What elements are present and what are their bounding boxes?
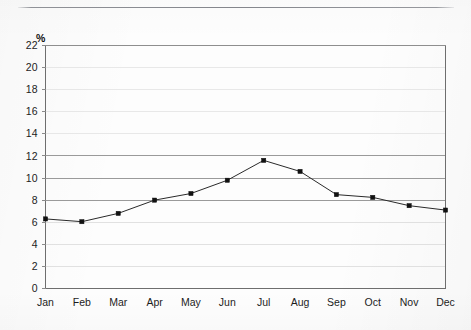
data-point-marker-jun (225, 178, 229, 182)
x-tick-label-aug: Aug (291, 296, 310, 308)
x-tick-label-apr: Apr (146, 296, 163, 308)
data-point-marker-jul (262, 158, 266, 162)
x-tick-label-oct: Oct (365, 296, 381, 308)
y-tick-label-18: 18 (26, 83, 38, 95)
x-tick-label-jan: Jan (37, 296, 54, 308)
data-point-marker-sep (334, 193, 338, 197)
x-tick-label-may: May (181, 296, 202, 308)
x-tick-label-dec: Dec (436, 296, 455, 308)
y-tick-label-4: 4 (32, 238, 38, 250)
x-tick-label-nov: Nov (400, 296, 419, 308)
data-point-markers (43, 158, 447, 224)
y-tick-label-10: 10 (26, 172, 38, 184)
gridlines-faint (46, 46, 446, 289)
y-tick-label-0: 0 (32, 282, 38, 294)
x-tick-label-jun: Jun (219, 296, 236, 308)
data-point-marker-nov (407, 204, 411, 208)
data-point-marker-feb (80, 220, 84, 224)
data-point-marker-jan (43, 217, 47, 221)
chart-svg: 0246810121416182022 JanFebMarAprMayJunJu… (0, 0, 471, 330)
y-tick-label-2: 2 (32, 260, 38, 272)
y-tick-label-8: 8 (32, 194, 38, 206)
data-point-marker-may (189, 191, 193, 195)
x-tick-label-jul: Jul (257, 296, 270, 308)
x-tick-label-mar: Mar (109, 296, 128, 308)
gridlines-strong (46, 156, 446, 200)
x-tick-label-feb: Feb (73, 296, 91, 308)
data-point-marker-aug (298, 169, 302, 173)
data-point-marker-dec (443, 208, 447, 212)
y-tick-label-20: 20 (26, 61, 38, 73)
data-point-marker-mar (116, 211, 120, 215)
y-tick-label-14: 14 (26, 127, 38, 139)
y-tick-label-12: 12 (26, 150, 38, 162)
data-point-marker-apr (152, 198, 156, 202)
series-polyline (46, 160, 446, 221)
y-tick-label-6: 6 (32, 216, 38, 228)
data-point-marker-oct (371, 195, 375, 199)
y-tick-label-16: 16 (26, 105, 38, 117)
x-tick-label-sep: Sep (327, 296, 346, 308)
line-chart: 0246810121416182022 JanFebMarAprMayJunJu… (0, 0, 471, 330)
data-series-line (46, 160, 446, 221)
page-canvas: 0246810121416182022 JanFebMarAprMayJunJu… (0, 0, 471, 330)
y-axis-tick-labels: 0246810121416182022 (26, 39, 46, 294)
x-axis-tick-labels: JanFebMarAprMayJunJulAugSepOctNovDec (37, 296, 455, 308)
chart-axes (46, 46, 446, 289)
y-axis-unit-label: % (36, 32, 46, 44)
